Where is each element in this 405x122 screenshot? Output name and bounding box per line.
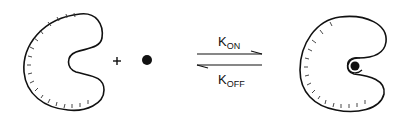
unbound-receptor — [24, 13, 104, 110]
receptor-ligand-complex — [300, 16, 386, 111]
equilibrium-arrows — [197, 51, 262, 68]
binding-diagram: KON KOFF — [0, 0, 405, 122]
ligand-dot — [142, 55, 152, 65]
plus-sign — [113, 57, 121, 65]
k-on-label: KON — [218, 34, 240, 51]
k-off-label: KOFF — [218, 72, 245, 89]
